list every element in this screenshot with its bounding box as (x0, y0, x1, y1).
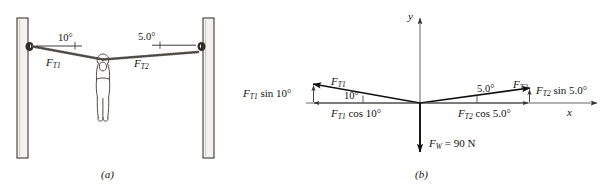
ft2-symbol-b: F (513, 78, 520, 90)
panel-a-tension-left-label: FT1 (46, 57, 61, 70)
right-wall (203, 18, 214, 158)
panel-b-angle-left: 10° (344, 91, 359, 102)
weight-label: FW = 90 N (429, 138, 475, 151)
ft2-symbol: F (134, 57, 141, 69)
y-axis-label: y (408, 11, 413, 22)
panel-b-ft2-label: FT2 (513, 79, 528, 92)
ft1-subscript-b: T1 (338, 80, 346, 89)
ft1-subscript: T1 (53, 61, 61, 70)
left-wall (17, 18, 28, 158)
component-label-ft2-cos: FT2 cos 5.0° (458, 108, 511, 121)
ft2-subscript-b: T2 (520, 83, 528, 92)
ft2cos-subscript: T2 (465, 112, 473, 121)
panel-b-angle-right: 5.0° (477, 84, 494, 95)
panel-a-angle-left: 10° (58, 33, 73, 44)
ft1cos-symbol: F (331, 107, 338, 119)
ft2sin-subscript: T2 (543, 89, 551, 98)
panel-b-ft1-label: FT1 (331, 76, 346, 89)
ft1sin-suffix: sin 10° (258, 87, 292, 99)
panel-a-caption: (a) (101, 169, 114, 180)
ft1cos-suffix: cos 10° (346, 107, 382, 119)
component-label-ft1-cos: FT1 cos 10° (331, 108, 381, 121)
ft1cos-subscript: T1 (338, 112, 346, 121)
ft1-symbol: F (46, 56, 53, 68)
fw-symbol: F (429, 137, 436, 149)
panel-a-tension-right-label: FT2 (134, 58, 149, 71)
angle-reference-right (152, 42, 196, 49)
panel-b-caption: (b) (415, 169, 428, 180)
gymnast-figure (96, 54, 110, 121)
ft1-symbol-b: F (331, 75, 338, 87)
ft2cos-suffix: cos 5.0° (473, 107, 511, 119)
figure-canvas (0, 0, 613, 191)
component-label-ft2-sin: FT2 sin 5.0° (536, 85, 587, 98)
x-axis-label: x (567, 107, 572, 118)
ft1sin-subscript: T1 (250, 92, 258, 101)
ft2sin-suffix: sin 5.0° (551, 84, 588, 96)
component-label-ft1-sin: FT1 sin 10° (243, 88, 291, 101)
ft2sin-symbol: F (536, 84, 543, 96)
ft2-subscript: T2 (141, 62, 149, 71)
right-rope-anchor (198, 42, 206, 51)
ft1sin-symbol: F (243, 87, 250, 99)
vector-ft1 (313, 84, 420, 103)
panel-a-group (17, 18, 214, 158)
fw-suffix: = 90 N (442, 137, 475, 149)
panel-a-angle-right: 5.0° (138, 32, 155, 43)
ft2cos-symbol: F (458, 107, 465, 119)
